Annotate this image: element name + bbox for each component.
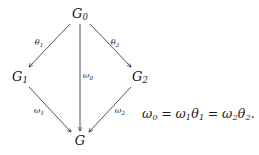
edge-label-theta1: θ1 — [35, 39, 44, 48]
node-g-base: G — [75, 133, 85, 148]
node-g0-subscript: 0 — [83, 12, 88, 22]
edge-label-omega1-base: ω — [34, 106, 41, 115]
edge-label-omega1: ω1 — [34, 107, 44, 116]
equation-equals-1: = — [161, 106, 172, 121]
equation-lhs-omega-subscript: 0 — [152, 113, 157, 123]
diagram-arrows — [0, 0, 259, 155]
edge-label-omega0-subscript: 0 — [90, 75, 94, 81]
node-g1: G1 — [12, 70, 28, 85]
edge-label-theta2-subscript: 2 — [116, 42, 120, 48]
node-g0: G0 — [72, 7, 88, 22]
equation-rhs-theta: θ — [238, 106, 246, 121]
equation-equals-2: = — [208, 106, 219, 121]
equation-mid-omega: ω — [175, 106, 185, 121]
node-g2: G2 — [132, 70, 148, 85]
commutativity-equation: ω0=ω1θ1=ω2θ2. — [142, 108, 255, 121]
equation-mid-theta: θ — [191, 106, 199, 121]
equation-rhs-omega: ω — [222, 106, 232, 121]
node-g1-base: G — [12, 69, 22, 84]
node-g2-subscript: 2 — [143, 75, 148, 85]
equation-period: . — [251, 106, 255, 121]
edge-label-omega0-base: ω — [83, 71, 90, 80]
node-g1-subscript: 1 — [23, 75, 28, 85]
edge-label-omega0: ω0 — [83, 72, 93, 81]
edge-label-omega2: ω2 — [115, 107, 125, 116]
equation-lhs-omega: ω — [142, 106, 152, 121]
node-g2-base: G — [132, 69, 142, 84]
node-g0-base: G — [72, 6, 82, 21]
node-g: G — [75, 134, 86, 149]
edge-label-omega1-subscript: 1 — [41, 110, 45, 116]
equation-mid-theta-subscript: 1 — [199, 113, 204, 123]
edge-label-omega2-base: ω — [115, 106, 122, 115]
edge-label-theta1-subscript: 1 — [40, 42, 44, 48]
figure-canvas: G0 G1 G2 G θ1 θ2 ω0 ω1 ω2 ω0=ω1θ1=ω2θ2. — [0, 0, 259, 155]
edge-label-omega2-subscript: 2 — [122, 110, 126, 116]
edge-label-theta2: θ2 — [111, 39, 120, 48]
